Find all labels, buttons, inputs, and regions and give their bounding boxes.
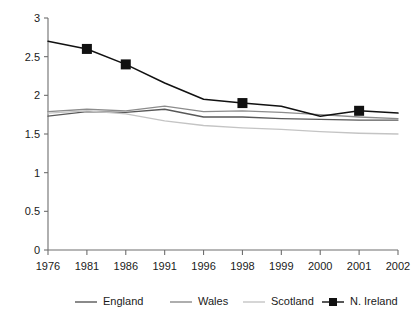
x-tick-label: 1981 bbox=[75, 260, 99, 272]
legend-marker-n-ireland bbox=[329, 298, 337, 306]
legend-label-wales: Wales bbox=[198, 295, 229, 307]
series-line-n-ireland bbox=[48, 41, 398, 116]
y-tick-label: 1.5 bbox=[25, 128, 40, 140]
data-point-marker bbox=[354, 106, 364, 116]
data-point-marker bbox=[121, 59, 131, 69]
chart-container: 00.511.522.53 19761981198619911996199819… bbox=[0, 0, 418, 328]
x-axis: 1976198119861991199619981999200020012002 bbox=[36, 250, 410, 272]
legend-label-n-ireland: N. Ireland bbox=[350, 295, 398, 307]
y-tick-label: 0 bbox=[34, 244, 40, 256]
chart-legend: EnglandWalesScotlandN. Ireland bbox=[75, 295, 398, 307]
y-tick-label: 2 bbox=[34, 89, 40, 101]
series-layer bbox=[48, 41, 398, 134]
x-tick-label: 1999 bbox=[269, 260, 293, 272]
x-tick-label: 1998 bbox=[230, 260, 254, 272]
x-tick-label: 1996 bbox=[191, 260, 215, 272]
x-tick-label: 2000 bbox=[308, 260, 332, 272]
y-tick-label: 0.5 bbox=[25, 205, 40, 217]
x-tick-label: 2002 bbox=[386, 260, 410, 272]
legend-label-england: England bbox=[103, 295, 143, 307]
y-tick-label: 2.5 bbox=[25, 51, 40, 63]
series-line-scotland bbox=[48, 111, 398, 134]
y-axis: 00.511.522.53 bbox=[25, 12, 48, 256]
y-tick-label: 1 bbox=[34, 167, 40, 179]
data-point-marker bbox=[237, 98, 247, 108]
data-point-marker bbox=[82, 44, 92, 54]
x-tick-label: 1976 bbox=[36, 260, 60, 272]
x-tick-label: 1986 bbox=[114, 260, 138, 272]
line-chart: 00.511.522.53 19761981198619911996199819… bbox=[0, 0, 418, 328]
x-tick-label: 2001 bbox=[347, 260, 371, 272]
y-tick-label: 3 bbox=[34, 12, 40, 24]
legend-label-scotland: Scotland bbox=[271, 295, 314, 307]
x-tick-label: 1991 bbox=[152, 260, 176, 272]
